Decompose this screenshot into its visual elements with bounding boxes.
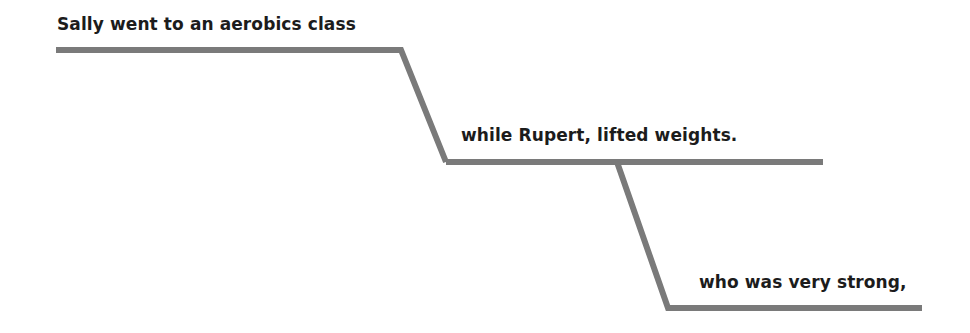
relative-clause-text: who was very strong, [699,272,907,292]
subordinate-clause-text: while Rupert, lifted weights. [461,125,737,145]
main-clause-text: Sally went to an aerobics class [57,14,356,34]
main-clause-line [56,50,446,162]
